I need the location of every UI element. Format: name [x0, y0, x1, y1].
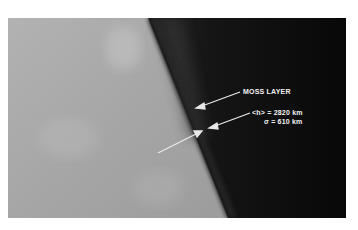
moss-layer-label: MOSS LAYER: [243, 88, 291, 95]
solar-limb-image: MOSS LAYER <h> = 2820 km σ = 610 km: [8, 18, 346, 218]
sigma-label: σ = 610 km: [264, 118, 303, 125]
mean-height-label: <h> = 2820 km: [252, 109, 303, 116]
